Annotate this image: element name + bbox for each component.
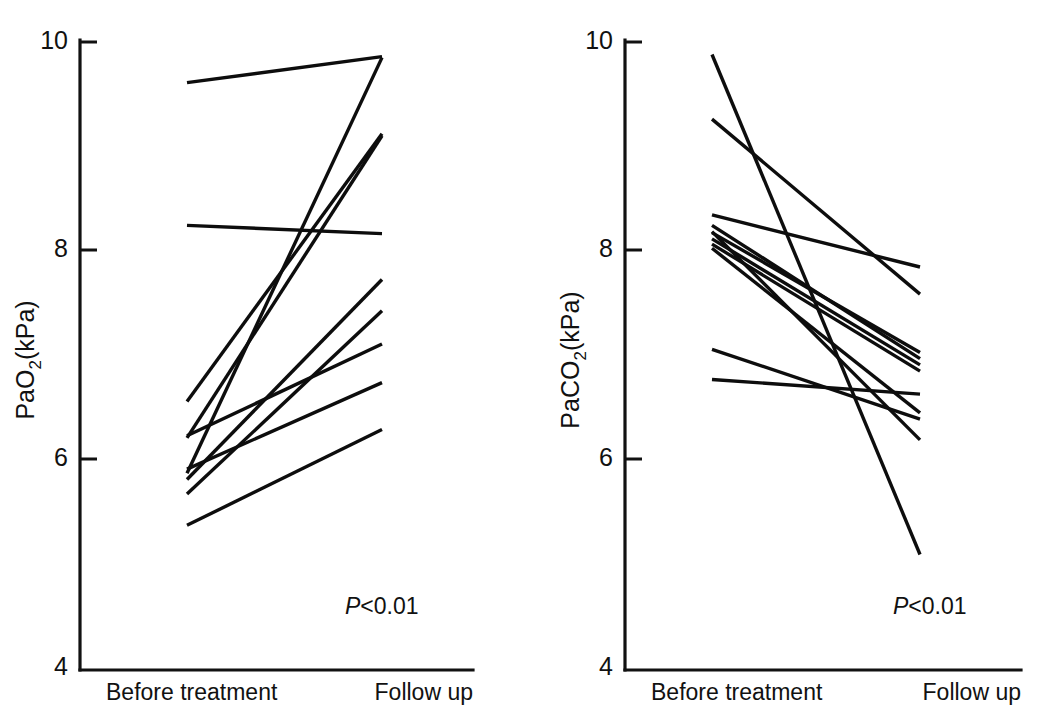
y-axis-title: PaCO2(kPa): [556, 291, 590, 428]
y-axis-title-base: PaCO: [556, 361, 584, 429]
data-line-subject-1: [187, 57, 382, 83]
p-value-threshold: <0.01: [360, 593, 418, 619]
pao2-category-labels: Before treatment Follow up: [106, 679, 473, 705]
pao2-axes: [80, 40, 473, 670]
p-value-symbol: P: [893, 593, 909, 619]
y-axis-title-unit: (kPa): [556, 291, 584, 351]
y-axis-title: PaO2(kPa): [11, 300, 45, 419]
pao2-tick-labels: 10 8 6 4: [40, 26, 68, 680]
x-category-before: Before treatment: [106, 679, 278, 705]
y-axis-title-subscript: 2: [26, 360, 45, 369]
data-line-subject-1: [712, 55, 920, 555]
figure-root: 10 8 6 4 PaO2(kPa) P<0.01 Before treatme…: [0, 0, 1041, 722]
x-category-followup: Follow up: [923, 679, 1021, 705]
chart-panel-pao2: 10 8 6 4 PaO2(kPa) P<0.01 Before treatme…: [0, 0, 520, 722]
y-tick-label-4: 4: [599, 652, 613, 680]
data-line-subject-4: [187, 136, 382, 438]
y-tick-label-4: 4: [54, 652, 68, 680]
data-line-subject-10: [712, 349, 920, 419]
y-tick-label-6: 6: [54, 443, 68, 471]
y-axis-title-base: PaO: [11, 370, 39, 420]
data-line-subject-6: [187, 280, 382, 480]
y-axis-title-subscript: 2: [571, 351, 590, 360]
data-line-subject-2: [187, 225, 382, 233]
p-value-symbol: P: [345, 593, 361, 619]
pao2-axis-title-group: PaO2(kPa): [11, 300, 45, 419]
paco2-annotation-group: P<0.01: [893, 593, 967, 619]
pao2-chart-svg: 10 8 6 4 PaO2(kPa) P<0.01 Before treatme…: [0, 0, 520, 722]
y-tick-label-10: 10: [40, 26, 68, 54]
y-axis-title-unit: (kPa): [11, 300, 39, 360]
x-category-before: Before treatment: [651, 679, 823, 705]
data-line-subject-2: [712, 119, 920, 294]
p-value-threshold: <0.01: [908, 593, 966, 619]
y-tick-label-8: 8: [599, 234, 613, 262]
x-category-followup: Follow up: [375, 679, 473, 705]
y-tick-label-10: 10: [585, 26, 613, 54]
paco2-axes: [625, 40, 1021, 670]
chart-panel-paco2: 10 8 6 4 PaCO2(kPa) P<0.01 Before treatm…: [520, 0, 1040, 722]
paco2-series-lines: [712, 55, 920, 555]
paco2-axis-title-group: PaCO2(kPa): [556, 291, 590, 428]
data-line-subject-10: [187, 430, 382, 526]
p-value-annotation: P<0.01: [893, 593, 967, 619]
paco2-category-labels: Before treatment Follow up: [651, 679, 1021, 705]
paco2-chart-svg: 10 8 6 4 PaCO2(kPa) P<0.01 Before treatm…: [520, 0, 1041, 722]
pao2-series-lines: [187, 57, 382, 526]
data-line-subject-5: [187, 58, 382, 474]
p-value-annotation: P<0.01: [345, 593, 419, 619]
y-tick-label-8: 8: [54, 234, 68, 262]
pao2-annotation-group: P<0.01: [345, 593, 419, 619]
y-tick-label-6: 6: [599, 443, 613, 471]
data-line-subject-7: [187, 311, 382, 494]
